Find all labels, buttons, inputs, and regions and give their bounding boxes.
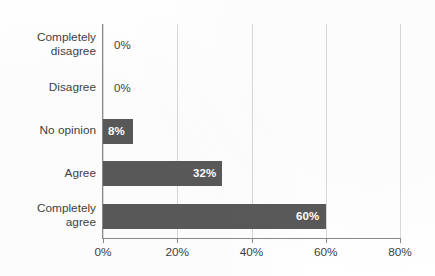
x-tick-mark-40 <box>252 238 253 243</box>
bar-completely-agree <box>103 204 326 229</box>
bar-row: 0% <box>103 24 400 67</box>
x-tick-label-80: 80% <box>388 245 412 259</box>
y-axis-labels: Completely disagree Disagree No opinion … <box>0 24 96 238</box>
y-tick-label-completely-agree: Completely agree <box>2 202 96 229</box>
bar-row: 32% <box>103 152 400 195</box>
x-tick-mark-20 <box>177 238 178 243</box>
x-tick-mark-0 <box>103 238 104 243</box>
y-tick-label-no-opinion: No opinion <box>2 124 96 138</box>
x-tick-mark-60 <box>326 238 327 243</box>
bar-row: 8% <box>103 110 400 153</box>
bar-label-completely-agree: 60% <box>296 204 319 229</box>
bar-label-no-opinion: 8% <box>108 119 125 144</box>
x-tick-label-40: 40% <box>240 245 264 259</box>
x-tick-label-0: 0% <box>94 245 111 259</box>
x-tick-label-20: 20% <box>165 245 189 259</box>
gridline-80 <box>400 24 401 238</box>
x-tick-mark-80 <box>400 238 401 243</box>
bar-row: 60% <box>103 195 400 238</box>
bar-row: 0% <box>103 67 400 110</box>
bar-label-agree: 32% <box>193 161 216 186</box>
y-tick-label-disagree: Disagree <box>2 81 96 95</box>
plot-area: 0% 0% 8% 32% 60% <box>103 24 400 238</box>
y-axis-line <box>102 24 103 239</box>
bar-chart: 0% 0% 8% 32% 60% Completely disagree Dis… <box>0 0 435 276</box>
bar-label-completely-disagree: 0% <box>114 33 131 58</box>
y-tick-label-agree: Agree <box>2 167 96 181</box>
y-tick-label-completely-disagree: Completely disagree <box>2 31 96 58</box>
bar-label-disagree: 0% <box>114 76 131 101</box>
x-tick-label-60: 60% <box>314 245 338 259</box>
